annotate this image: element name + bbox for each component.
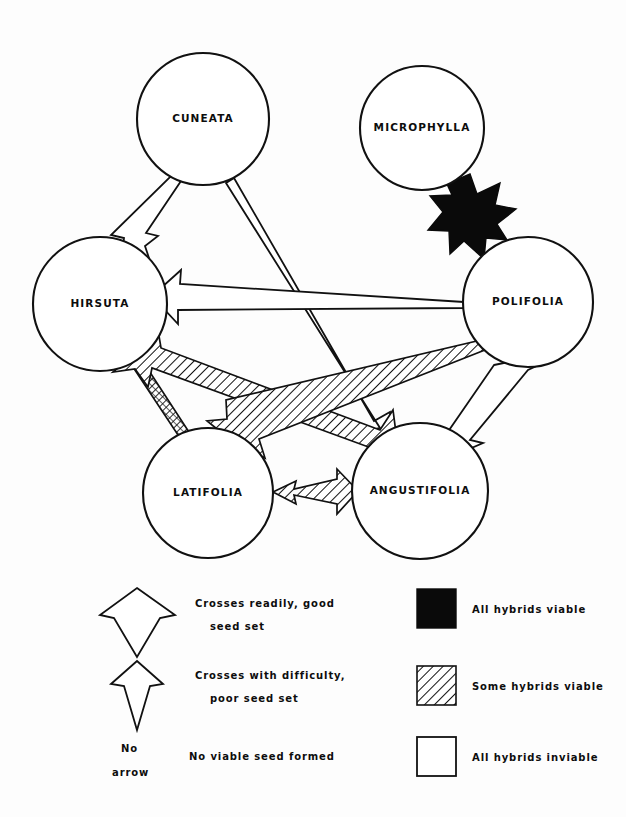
node-latifolia[interactable]: LATIFOLIA <box>143 428 273 558</box>
legend-all-inviable-label: All hybrids inviable <box>472 752 598 763</box>
legend-arrow-column: Crosses readily, good seed set Crosses w… <box>100 588 345 778</box>
node-cuneata[interactable]: CUNEATA <box>137 53 269 185</box>
edge-latifolia-angustifolia <box>273 469 358 514</box>
legend-item-narrow-arrow: Crosses with difficulty, poor seed set <box>111 661 345 730</box>
no-arrow-icon-label-line2: arrow <box>112 767 149 778</box>
legend-item-no-arrow: No arrow No viable seed formed <box>112 743 335 778</box>
edge-polifolia-hirsuta <box>152 270 464 324</box>
legend-wide-arrow-line1: Crosses readily, good <box>195 598 335 609</box>
hybridization-diagram: CUNEATA MICROPHYLLA HIRSUTA POLIFOLIA LA… <box>0 0 626 817</box>
node-microphylla[interactable]: MICROPHYLLA <box>360 66 484 190</box>
legend-wide-arrow-line2: seed set <box>210 621 265 632</box>
node-label-latifolia: LATIFOLIA <box>173 486 243 498</box>
white-square-icon <box>417 737 456 776</box>
hatched-square-icon <box>417 666 456 705</box>
node-label-angustifolia: ANGUSTIFOLIA <box>370 484 471 496</box>
node-label-polifolia: POLIFOLIA <box>492 295 564 307</box>
node-polifolia[interactable]: POLIFOLIA <box>463 237 593 367</box>
node-label-cuneata: CUNEATA <box>172 112 234 124</box>
node-hirsuta[interactable]: HIRSUTA <box>33 237 167 371</box>
legend-narrow-arrow-line1: Crosses with difficulty, <box>195 670 345 681</box>
node-label-hirsuta: HIRSUTA <box>70 297 129 309</box>
black-square-icon <box>417 589 456 628</box>
legend-swatch-column: All hybrids viable Some hybrids viable A… <box>417 589 604 776</box>
node-angustifolia[interactable]: ANGUSTIFOLIA <box>352 423 488 559</box>
legend-item-all-inviable: All hybrids inviable <box>417 737 598 776</box>
legend-no-arrow-description: No viable seed formed <box>189 751 335 762</box>
legend-narrow-arrow-line2: poor seed set <box>210 693 299 704</box>
legend-item-wide-arrow: Crosses readily, good seed set <box>100 588 335 657</box>
node-label-microphylla: MICROPHYLLA <box>374 121 471 133</box>
diagram-canvas: CUNEATA MICROPHYLLA HIRSUTA POLIFOLIA LA… <box>0 0 626 817</box>
wide-open-arrow-icon <box>100 588 175 657</box>
legend-item-all-viable: All hybrids viable <box>417 589 586 628</box>
narrow-open-arrow-icon <box>111 661 163 730</box>
legend-all-viable-label: All hybrids viable <box>472 604 586 615</box>
legend-some-viable-label: Some hybrids viable <box>472 681 604 692</box>
no-arrow-icon-label-line1: No <box>121 743 138 754</box>
legend-item-some-viable: Some hybrids viable <box>417 666 604 705</box>
